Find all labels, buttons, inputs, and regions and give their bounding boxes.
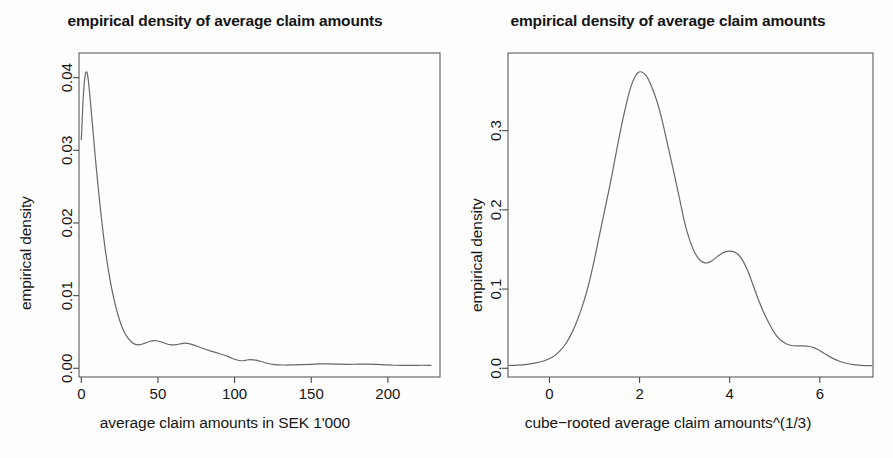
y-tick-label: 0.0	[487, 358, 504, 379]
x-tick-label: 2	[635, 385, 643, 402]
x-tick-label: 6	[816, 385, 824, 402]
panel-right-plot-area: 02460.00.10.20.3	[443, 0, 893, 458]
x-tick-label: 0	[77, 385, 85, 402]
x-tick-label: 50	[150, 385, 167, 402]
y-tick-label: 0.02	[58, 208, 75, 237]
y-tick-label: 0.1	[487, 279, 504, 300]
panel-left-plot-area: 0501001502000.000.010.020.030.04	[0, 0, 450, 458]
x-tick-label: 4	[726, 385, 734, 402]
panel-left-density-plot: empirical density of average claim amoun…	[0, 0, 450, 458]
density-curve	[81, 72, 431, 366]
panel-left-x-axis-label: average claim amounts in SEK 1'000	[0, 414, 450, 432]
y-tick-label: 0.3	[487, 120, 504, 141]
figure-canvas: empirical density of average claim amoun…	[0, 0, 893, 458]
y-tick-label: 0.01	[58, 281, 75, 310]
y-tick-label: 0.04	[58, 63, 75, 92]
x-tick-label: 200	[375, 385, 400, 402]
x-tick-label: 150	[299, 385, 324, 402]
y-tick-label: 0.00	[58, 354, 75, 383]
panel-right-density-plot: empirical density of average claim amoun…	[443, 0, 893, 458]
y-tick-label: 0.03	[58, 136, 75, 165]
y-tick-label: 0.2	[487, 199, 504, 220]
x-tick-label: 0	[545, 385, 553, 402]
panel-left-y-axis-label: empirical density	[17, 196, 35, 310]
x-tick-label: 100	[222, 385, 247, 402]
panel-right-y-axis-label: empirical density	[468, 198, 486, 312]
density-curve	[509, 72, 872, 366]
panel-right-x-axis-label: cube−rooted average claim amounts^(1/3)	[443, 414, 893, 432]
